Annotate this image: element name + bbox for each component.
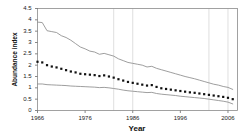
data-point-marker (122, 79, 124, 81)
data-point-marker (60, 68, 62, 70)
y-tick-label: 4.5 (14, 5, 32, 12)
data-point-marker (113, 77, 115, 79)
data-point-marker (89, 74, 91, 76)
y-tick-label: 0.5 (14, 96, 32, 103)
data-point-marker (74, 71, 76, 73)
data-point-marker (146, 84, 148, 86)
data-point-marker (217, 95, 219, 97)
data-point-marker (55, 66, 57, 68)
data-point-marker (227, 97, 229, 99)
x-tick-label: 1966 (25, 115, 51, 122)
data-point-marker (179, 90, 181, 92)
x-tick-label: 1976 (72, 115, 98, 122)
data-point-marker (184, 91, 186, 93)
data-point-marker (189, 91, 191, 93)
data-point-marker (84, 73, 86, 75)
data-point-marker (213, 94, 215, 96)
data-point-marker (232, 98, 234, 100)
data-point-marker (151, 84, 153, 86)
plot-frame (38, 9, 238, 111)
data-point-marker (79, 73, 81, 75)
data-point-marker (117, 78, 119, 80)
x-tick-label: 2006 (215, 115, 241, 122)
data-point-marker (103, 74, 105, 76)
data-point-marker (36, 61, 38, 63)
data-point-marker (198, 92, 200, 94)
data-point-marker (127, 81, 129, 83)
data-point-marker (98, 75, 100, 77)
data-point-marker (132, 82, 134, 84)
data-series-layer (36, 22, 233, 104)
data-point-marker (203, 93, 205, 95)
data-point-marker (41, 61, 43, 63)
y-tick-label: 4 (14, 16, 32, 23)
x-tick-label: 1996 (167, 115, 193, 122)
data-point-marker (94, 74, 96, 76)
y-axis-title: Abundance index (11, 24, 18, 96)
x-axis-title: Year (37, 124, 237, 133)
data-point-marker (46, 64, 48, 66)
data-point-marker (165, 88, 167, 90)
data-point-marker (155, 86, 157, 88)
data-point-marker (222, 96, 224, 98)
data-point-marker (141, 84, 143, 86)
axes-box (38, 9, 238, 111)
data-point-marker (170, 89, 172, 91)
data-point-marker (160, 87, 162, 89)
data-point-marker (108, 75, 110, 77)
x-tick-label: 1986 (120, 115, 146, 122)
chart-figure: 00.511.522.533.544.5 1966197619861996200… (0, 0, 249, 136)
data-point-marker (208, 94, 210, 96)
confidence-limit-line (38, 22, 233, 89)
y-tick-label: 0 (14, 107, 32, 114)
data-point-marker (136, 83, 138, 85)
data-point-marker (70, 70, 72, 72)
data-point-marker (65, 69, 67, 71)
data-point-marker (174, 89, 176, 91)
data-point-marker (51, 65, 53, 67)
data-point-marker (194, 92, 196, 94)
